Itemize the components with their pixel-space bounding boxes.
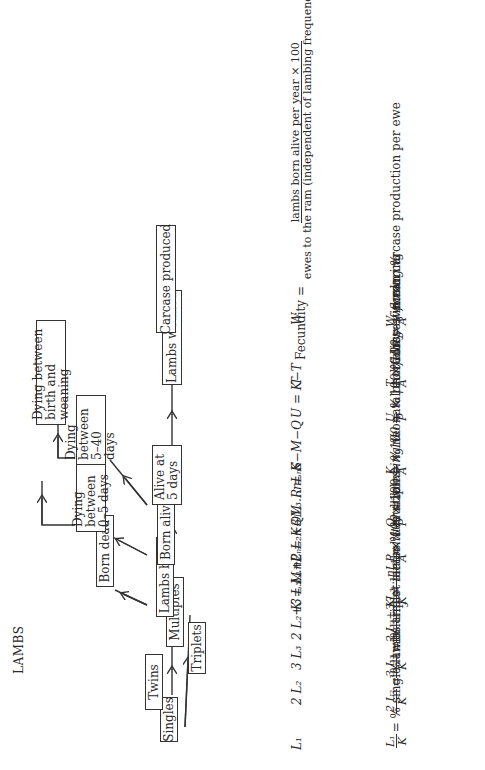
symbol-3l3: 3 L₃ <box>290 646 304 670</box>
symbol-m: M <box>290 572 304 584</box>
box-carcase-produced: Carcase produced <box>156 225 176 333</box>
rotated-page: LAMBS <box>0 0 485 770</box>
box-dying-5-40-days: Dying between 5–40 days <box>76 395 106 465</box>
symbol-q: Q <box>290 516 304 526</box>
symbol-u: U = K−T <box>290 363 304 418</box>
formula-carcase-per-ewe: WA mean carcase production per ewe <box>385 102 408 330</box>
symbol-r: R = K−M−Q <box>290 420 304 498</box>
box-alive-at-5-days: Alive at 5 days <box>152 445 182 505</box>
symbol-s: S <box>290 462 304 470</box>
box-triplets: Triplets <box>188 622 206 674</box>
symbol-p: P = K−M <box>290 505 304 562</box>
symbol-t: T <box>290 377 304 385</box>
flowchart-connectors <box>0 0 485 770</box>
formula-fecundity: Fecundity = lambs born alive per year × … <box>290 0 313 360</box>
box-dying-0-5-days: Dying between 0–5 days <box>76 462 106 532</box>
box-dying-birth-weaning: Dying between birth and weaning <box>36 320 66 425</box>
symbol-2l2: 2 L₂ <box>290 681 304 705</box>
symbol-l1: L₁ <box>290 737 304 750</box>
box-twins: Twins <box>145 654 163 710</box>
